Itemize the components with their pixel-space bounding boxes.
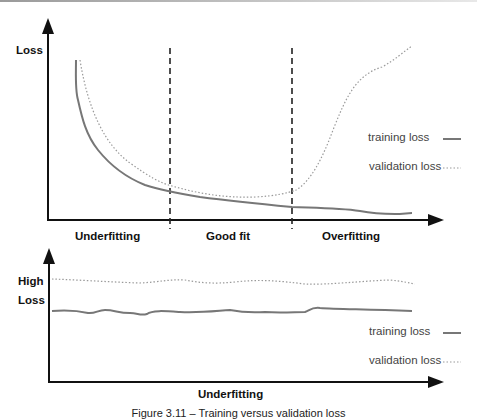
top-chart <box>47 26 461 229</box>
top-legend-validation-label: validation loss <box>369 160 441 172</box>
region-label-underfitting: Underfitting <box>75 230 140 242</box>
bottom-legend-training-label: training loss <box>369 325 430 337</box>
top-legend-training-label: training loss <box>368 131 429 143</box>
region-label-good-fit: Good fit <box>206 230 250 242</box>
top-training-loss-line <box>76 60 412 214</box>
bottom-x-axis-label: Underfitting <box>198 388 263 400</box>
bottom-validation-loss-line <box>52 279 415 284</box>
region-label-overfitting: Overfitting <box>322 230 380 242</box>
bottom-y-axis-label-line2: Loss <box>18 294 45 306</box>
bottom-training-loss-line <box>52 308 412 315</box>
top-validation-loss-line <box>80 46 412 197</box>
bottom-y-axis-label-line1: High <box>18 275 44 287</box>
top-y-axis-label: Loss <box>16 44 43 56</box>
figure-caption: Figure 3.11 – Training versus validation… <box>0 407 477 419</box>
bottom-legend-validation-label: validation loss <box>369 354 441 366</box>
